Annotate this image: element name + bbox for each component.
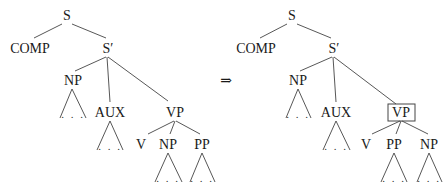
left-node-np: NP	[64, 73, 82, 88]
left-node-s: S	[63, 8, 71, 23]
right-node-vp: VP	[392, 105, 410, 120]
left-node-vp-np: NP	[159, 137, 177, 152]
right-node-sbar: S′	[329, 41, 340, 56]
right-node-comp: COMP	[236, 41, 276, 56]
right-node-np: NP	[289, 73, 307, 88]
left-np-ellipsis: . . .	[61, 108, 85, 120]
right-aux-ellipsis: . . .	[324, 140, 348, 152]
left-node-sbar: S′	[103, 41, 114, 56]
left-edge-sbar-np	[75, 57, 106, 71]
right-tree: S COMP S′ NP . . . AUX . . . VP V PP . .…	[236, 8, 442, 184]
left-node-pp: PP	[194, 137, 210, 152]
left-edge-vp-v	[148, 121, 174, 134]
left-edge-vp-pp	[176, 121, 200, 134]
left-edge-sbar-vp	[108, 57, 168, 101]
right-edge-vp-np	[402, 121, 428, 134]
left-node-vp: VP	[166, 105, 184, 120]
left-edge-s-comp	[34, 24, 62, 38]
left-pp-ellipsis: . . .	[190, 172, 214, 184]
left-node-v: V	[136, 137, 146, 152]
right-edge-sbar-vp	[334, 57, 396, 104]
left-node-aux: AUX	[95, 105, 125, 120]
left-edge-s-sbar	[72, 24, 106, 38]
right-edge-sbar-aux	[333, 57, 336, 102]
right-edge-s-comp	[260, 24, 287, 38]
right-vp-np-ellipsis: . . .	[417, 172, 441, 184]
right-node-pp: PP	[386, 137, 402, 152]
right-pp-ellipsis: . . .	[382, 172, 406, 184]
left-edge-sbar-aux	[107, 57, 110, 102]
right-node-v: V	[361, 137, 371, 152]
right-node-vp-np: NP	[420, 137, 438, 152]
left-node-comp: COMP	[10, 41, 50, 56]
transformation-arrow-icon: ⇒	[220, 73, 232, 88]
right-node-s: S	[288, 8, 296, 23]
right-edge-vp-v	[372, 121, 400, 134]
right-np-ellipsis: . . .	[286, 108, 310, 120]
right-edge-s-sbar	[297, 24, 331, 38]
left-tree: S COMP S′ NP . . . AUX . . . VP V NP . .…	[10, 8, 215, 184]
right-edge-sbar-np	[300, 57, 332, 71]
right-node-aux: AUX	[321, 105, 351, 120]
left-vp-np-ellipsis: . . .	[156, 172, 180, 184]
syntax-tree-diagram: S COMP S′ NP . . . AUX . . . VP V NP . .…	[0, 0, 448, 192]
left-aux-ellipsis: . . .	[98, 140, 122, 152]
